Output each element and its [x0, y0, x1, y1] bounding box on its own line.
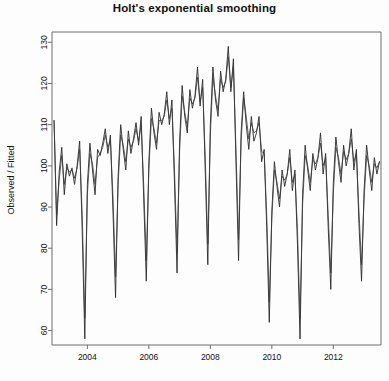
plot-area: 60708090100110120130 2004200620082010201…: [0, 0, 389, 381]
x-tick-label: 2006: [139, 352, 158, 362]
y-tick-label: 90: [39, 202, 49, 212]
x-axis-ticks: 20042006200820102012: [78, 345, 343, 362]
y-tick-label: 100: [39, 158, 49, 172]
plot-frame: [52, 32, 381, 345]
series-line-observed: [54, 46, 379, 338]
y-tick-label: 80: [39, 243, 49, 253]
y-axis-ticks: 60708090100110120130: [39, 35, 52, 335]
x-tick-label: 2010: [262, 352, 281, 362]
x-tick-label: 2012: [324, 352, 343, 362]
y-tick-label: 120: [39, 76, 49, 90]
x-tick-label: 2008: [201, 352, 220, 362]
y-tick-label: 130: [39, 35, 49, 49]
x-tick-label: 2004: [78, 352, 97, 362]
y-tick-label: 110: [39, 118, 49, 132]
y-tick-label: 70: [39, 284, 49, 294]
y-tick-label: 60: [39, 326, 49, 336]
chart-figure: Holt's exponential smoothing Observed / …: [0, 0, 389, 381]
data-series: [54, 46, 379, 338]
